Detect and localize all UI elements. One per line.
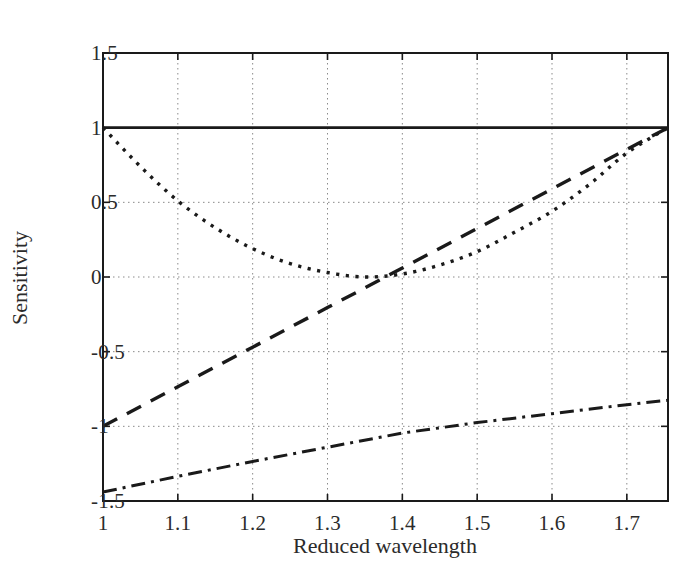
- y-axis-title: Sensitivity: [7, 231, 33, 325]
- x-axis-title: Reduced wavelength: [293, 533, 477, 559]
- x-tick-label: 1.6: [539, 511, 566, 536]
- x-tick-label: 1.1: [164, 511, 191, 536]
- series-line-dash-dot: [103, 400, 668, 492]
- x-tick-label: 1: [98, 511, 109, 536]
- chart-figure: 11.11.21.31.41.51.61.71.510.50-0.5-1-1.5…: [0, 0, 682, 570]
- x-tick-label: 1.7: [613, 511, 640, 536]
- x-tick-label: 1.2: [239, 511, 266, 536]
- plot-canvas: [0, 0, 682, 570]
- data-series-layer: [103, 128, 668, 492]
